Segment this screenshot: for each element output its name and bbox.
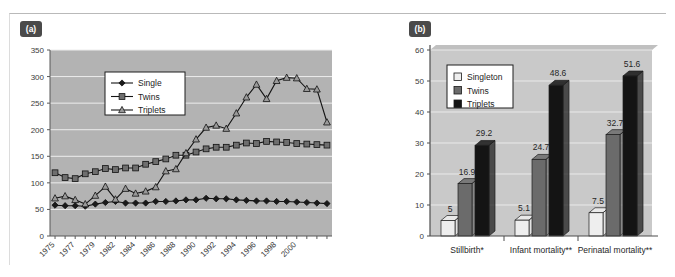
marker-square: [62, 175, 68, 181]
marker-square: [193, 149, 199, 155]
plot-top-face: [430, 45, 658, 50]
y-tick-label: 200: [31, 126, 45, 135]
marker-square: [294, 141, 300, 147]
x-tick-label: 1994: [219, 240, 238, 259]
bar-value-label: 16.9: [459, 167, 476, 177]
legend-label-triplets: Triplets: [138, 105, 166, 115]
marker-square: [223, 144, 229, 150]
x-tick-label: 1992: [199, 240, 218, 259]
legend-label-single: Single: [138, 78, 162, 88]
marker-square: [143, 161, 149, 167]
bar-value-label: 48.6: [550, 68, 567, 78]
marker-square: [284, 140, 290, 146]
panel-b-label: (b): [409, 21, 431, 37]
bar-value-label: 5.1: [518, 203, 530, 213]
y-tick-label: 30: [415, 139, 424, 148]
bar-front-face: [623, 76, 637, 236]
category-label: Stillbirth*: [450, 245, 484, 255]
bar-front-face: [441, 221, 455, 237]
marker-square: [163, 156, 169, 162]
y-tick-label: 150: [31, 152, 45, 161]
bar-side-face: [563, 80, 569, 236]
bar-front-face: [475, 145, 489, 236]
y-tick-label: 50: [415, 77, 424, 86]
legend-label-triplets: Triplets: [467, 99, 495, 109]
bar-triplets-1: 48.6: [549, 68, 569, 236]
marker-square: [92, 169, 98, 175]
bar-triplets-2: 51.6: [623, 59, 643, 236]
bar-value-label: 7.5: [592, 196, 604, 206]
bar-front-face: [458, 184, 472, 236]
bar-value-label: 32.7: [607, 118, 624, 128]
marker-square: [153, 159, 159, 165]
y-tick-label: 0: [420, 232, 425, 241]
legend-label-twins: Twins: [138, 92, 160, 102]
x-tick-label: 2000: [279, 240, 298, 259]
y-tick-label: 60: [415, 46, 424, 55]
panel-b-bar-chart: (b) 0102030405060516.929.2Stillbirth*5.1…: [400, 13, 666, 265]
y-tick-label: 20: [415, 170, 424, 179]
marker-square: [52, 170, 58, 176]
y-tick-label: 50: [35, 205, 44, 214]
category-label: Perinatal mortality**: [578, 245, 653, 255]
marker-square: [203, 146, 209, 152]
y-tick-label: 0: [40, 232, 45, 241]
marker-square: [173, 152, 179, 158]
y-tick-label: 10: [415, 201, 424, 210]
y-tick-label: 250: [31, 99, 45, 108]
y-tick-label: 40: [415, 108, 424, 117]
bar-value-label: 51.6: [624, 59, 641, 69]
legend-swatch: [454, 73, 462, 81]
bar-front-face: [532, 159, 546, 236]
marker-square: [82, 171, 88, 177]
y-tick-label: 350: [31, 46, 45, 55]
bar-front-face: [589, 213, 603, 236]
x-tick-label: 1996: [239, 240, 258, 259]
panel-a-legend: SingleTwinsTriplets: [105, 72, 185, 115]
bar-front-face: [549, 85, 563, 236]
marker-square: [304, 141, 310, 147]
bar-value-label: 5: [448, 204, 453, 214]
marker-square: [102, 166, 108, 172]
x-tick-label: 1998: [259, 240, 278, 259]
marker-square: [274, 139, 280, 145]
bar-side-face: [637, 71, 643, 236]
bar-front-face: [606, 135, 620, 236]
x-tick-label: 1988: [158, 240, 177, 259]
x-tick-label: 1977: [58, 240, 77, 259]
bar-value-label: 29.2: [476, 128, 493, 138]
figure-container: (a) 050100150200250300350197519771979198…: [0, 0, 675, 277]
marker-square: [213, 144, 219, 150]
x-tick-label: 1990: [179, 240, 198, 259]
marker-square: [113, 167, 119, 173]
x-tick-label: 1975: [38, 240, 57, 259]
marker-square: [264, 139, 270, 145]
bar-side-face: [489, 140, 495, 236]
marker-square: [133, 165, 139, 171]
y-tick-label: 300: [31, 73, 45, 82]
x-tick-label: 1979: [78, 240, 97, 259]
legend-label-twins: Twins: [467, 86, 489, 96]
bar-triplets-0: 29.2: [475, 128, 495, 236]
x-tick-label: 1982: [98, 240, 117, 259]
bar-front-face: [515, 220, 529, 236]
marker-square: [72, 176, 78, 182]
x-tick-label: 1984: [118, 240, 137, 259]
panel-b-plot: 0102030405060516.929.2Stillbirth*5.124.7…: [400, 13, 666, 265]
x-tick-label: 1986: [138, 240, 157, 259]
panel-a-label: (a): [20, 21, 42, 37]
legend-swatch: [454, 100, 462, 108]
legend-label-singleton: Singleton: [467, 72, 503, 82]
category-label: Infant mortality**: [510, 245, 573, 255]
marker-square: [254, 141, 260, 147]
y-tick-label: 100: [31, 179, 45, 188]
legend-swatch: [454, 87, 462, 95]
panel-a-plot: 0501001502002503003501975197719791982198…: [9, 13, 349, 265]
marker-square: [119, 94, 125, 100]
marker-square: [314, 142, 320, 148]
panel-a-line-chart: (a) 050100150200250300350197519771979198…: [9, 13, 349, 265]
marker-square: [233, 142, 239, 148]
marker-square: [123, 165, 129, 171]
bar-value-label: 24.7: [533, 142, 550, 152]
marker-square: [243, 140, 249, 146]
